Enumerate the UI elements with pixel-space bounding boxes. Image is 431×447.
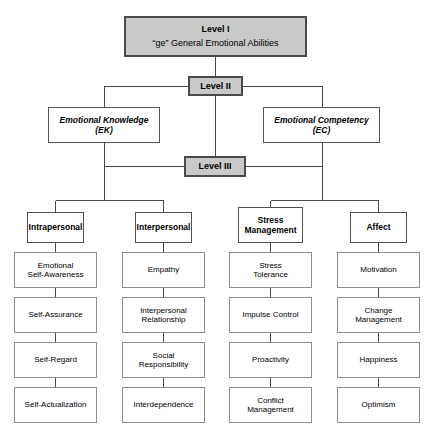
leaf-label-line1: Motivation [360, 265, 396, 274]
leaf-box: Social Responsibility [122, 342, 205, 378]
level-2-label: Level II [200, 81, 231, 92]
leaf-box: Optimism [337, 387, 420, 423]
branch-box-emotional-competency: Emotional Competency (EC) [263, 107, 380, 143]
leaf-box: Proactivity [229, 342, 312, 378]
leaf-label-line1: Optimism [362, 400, 396, 409]
level-1-box: Level I “ge” General Emotional Abilities [124, 16, 307, 57]
leaf-label-line1: Impulse Control [242, 310, 298, 319]
leaf-label-line2: Tolerance [253, 270, 288, 279]
leaf-box: Self-Actualization [14, 387, 97, 423]
branch-label-line1: Emotional Knowledge [60, 115, 149, 125]
category-header-intrapersonal: Intrapersonal [27, 212, 84, 243]
leaf-label-line2: Self-Awareness [28, 270, 84, 279]
level-1-title: Level I [201, 24, 229, 35]
leaf-box: Empathy [122, 252, 205, 288]
branch-box-emotional-knowledge: Emotional Knowledge (EK) [48, 107, 160, 143]
category-header-interpersonal: Interpersonal [135, 212, 192, 243]
category-label-line2: Management [245, 225, 297, 235]
leaf-label-line2: Relationship [141, 315, 185, 324]
leaf-label-line1: Happiness [360, 355, 398, 364]
category-label-line1: Affect [366, 222, 390, 232]
category-label-line1: Interpersonal [137, 222, 191, 232]
leaf-label-line1: Proactivity [252, 355, 289, 364]
leaf-box: Impulse Control [229, 297, 312, 333]
hierarchy-diagram: Level I “ge” General Emotional Abilities… [0, 0, 431, 447]
leaf-box: Interdependence [122, 387, 205, 423]
level-1-subtitle: “ge” General Emotional Abilities [152, 38, 278, 49]
leaf-label-line1: Social [153, 351, 175, 360]
leaf-label-line1: Self-Assurance [28, 310, 82, 319]
category-label-line1: Intrapersonal [29, 222, 83, 232]
leaf-box: Self-Assurance [14, 297, 97, 333]
branch-label-line2: (EC) [313, 125, 330, 135]
leaf-label-line1: Emotional [38, 261, 74, 270]
level-3-box: Level III [184, 156, 246, 177]
leaf-box: Happiness [337, 342, 420, 378]
category-header-affect: Affect [350, 212, 407, 243]
leaf-box: Conflict Management [229, 387, 312, 423]
category-label-line1: Stress [258, 215, 284, 225]
leaf-label-line1: Empathy [148, 265, 180, 274]
leaf-label-line1: Interpersonal [140, 306, 187, 315]
category-header-stress-management: Stress Management [238, 207, 303, 243]
leaf-box: Self-Regard [14, 342, 97, 378]
branch-label-line2: (EK) [95, 125, 112, 135]
leaf-box: Emotional Self-Awareness [14, 252, 97, 288]
leaf-label-line2: Management [247, 405, 294, 414]
leaf-label-line2: Management [355, 315, 402, 324]
leaf-label-line1: Change [364, 306, 392, 315]
leaf-label-line1: Interdependence [133, 400, 193, 409]
leaf-box: Interpersonal Relationship [122, 297, 205, 333]
leaf-label-line1: Self-Actualization [25, 400, 87, 409]
leaf-label-line1: Self-Regard [34, 355, 77, 364]
leaf-box: Change Management [337, 297, 420, 333]
leaf-label-line1: Stress [259, 261, 282, 270]
leaf-label-line1: Conflict [257, 396, 284, 405]
leaf-box: Stress Tolerance [229, 252, 312, 288]
leaf-box: Motivation [337, 252, 420, 288]
branch-label-line1: Emotional Competency [274, 115, 368, 125]
level-3-label: Level III [198, 161, 231, 172]
level-2-box: Level II [188, 76, 243, 96]
leaf-label-line2: Responsibility [139, 360, 188, 369]
